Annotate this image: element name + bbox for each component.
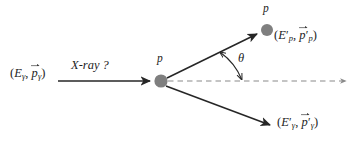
scattering-angle-label: θ — [238, 52, 244, 65]
proton-momentum-vector: p — [299, 29, 305, 42]
proton-close-paren: ) — [313, 28, 317, 42]
proton-momentum-prime: ′ — [306, 28, 309, 42]
incoming-close-paren: ) — [41, 66, 45, 80]
photon-momentum-symbol: p — [301, 115, 307, 129]
scattered-proton-particle-label: p — [263, 3, 269, 15]
xray-question-label: X-ray ? — [71, 59, 109, 72]
incoming-momentum-symbol: p — [32, 66, 38, 80]
scattered-proton-dot — [261, 24, 273, 36]
target-proton-label: p — [157, 53, 163, 65]
incoming-photon-label: (Eγ, pγ) — [10, 67, 46, 81]
incoming-momentum-vector: p — [32, 67, 38, 80]
incoming-energy-symbol: E — [14, 66, 22, 80]
compton-scattering-diagram: (Eγ, pγ) X-ray ? p p (E′p, p′p) (E′γ, p′… — [0, 0, 356, 144]
scattered-photon-arrow — [166, 86, 270, 125]
scattered-proton-fourmomentum-label: (E′p, p′p) — [274, 29, 317, 43]
proton-energy-symbol: E — [278, 28, 286, 42]
photon-close-paren: ) — [314, 115, 318, 129]
photon-energy-symbol: E — [281, 115, 289, 129]
proton-momentum-symbol: p — [299, 28, 305, 42]
photon-momentum-vector: p — [301, 116, 307, 129]
scattered-photon-fourmomentum-label: (E′γ, p′γ) — [277, 116, 318, 130]
target-proton-dot — [154, 74, 167, 87]
